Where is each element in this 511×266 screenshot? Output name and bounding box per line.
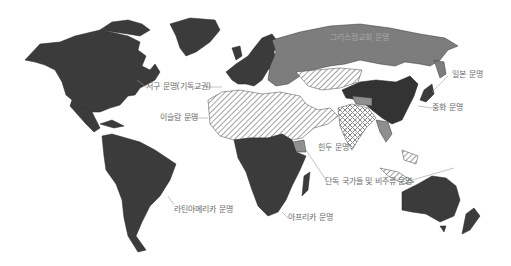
label-orthodox: 그리스정교회 문명 (330, 33, 389, 43)
label-lone-states: 단독 국가들 및 비주류 문명 (325, 177, 412, 187)
region-latin-america (102, 134, 176, 252)
label-africa: 아프리카 문명 (288, 213, 333, 223)
label-western: 서구 문명(기독교권) (146, 82, 211, 92)
region-western-oceania (402, 176, 480, 234)
label-hindu: 힌두 문명 (318, 143, 349, 153)
region-japanese (420, 84, 434, 102)
label-islamic: 이슬람 문명 (160, 113, 198, 123)
world-civilizations-map (0, 0, 511, 266)
label-japanese: 일본 문명 (452, 70, 483, 80)
label-latin-america: 라틴아메리카 문명 (174, 205, 233, 215)
label-sinic: 중화 문명 (432, 103, 463, 113)
